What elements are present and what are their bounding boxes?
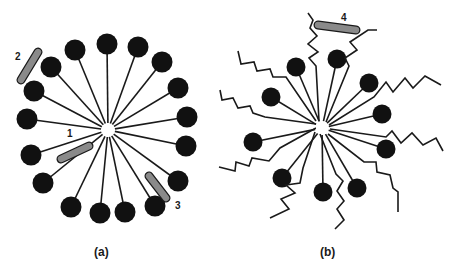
polar-head <box>97 34 118 55</box>
panel-label-b: (b) <box>320 245 335 259</box>
polar-head <box>262 88 281 107</box>
polar-head <box>373 105 392 124</box>
polar-head <box>90 203 111 224</box>
surfactant-tail <box>115 131 186 146</box>
guest-label-2: 2 <box>15 51 21 62</box>
polar-head <box>176 136 197 157</box>
polar-head <box>168 171 189 192</box>
polar-head <box>377 140 396 159</box>
polar-head <box>177 107 198 128</box>
polar-head <box>41 57 62 78</box>
polar-head <box>115 202 136 223</box>
polar-head <box>314 183 333 202</box>
polar-head <box>65 40 86 61</box>
polar-head <box>61 197 82 218</box>
zigzag-chain <box>219 128 316 171</box>
surfactant-tail <box>253 129 315 142</box>
polar-head <box>348 179 367 198</box>
polar-head <box>21 145 42 166</box>
panel-label-a: (a) <box>94 245 109 259</box>
surfactant-tail <box>112 62 162 125</box>
guest-label-1: 1 <box>67 128 73 139</box>
surfactant-tail <box>51 67 103 125</box>
surfactant-tail <box>110 47 138 123</box>
polar-head <box>360 74 379 93</box>
guest-molecule-3 <box>149 176 166 198</box>
guest-label-4: 4 <box>341 12 347 23</box>
surfactant-tail <box>100 137 107 213</box>
micelle-core <box>316 122 328 134</box>
guest-label-3: 3 <box>175 200 181 211</box>
micelle-figure: 2 1 3 4 (a) (b) <box>0 0 451 277</box>
polar-head <box>244 133 263 152</box>
polar-head <box>33 173 54 194</box>
panel-b-mixed-micelle <box>219 13 443 229</box>
surfactant-tail <box>109 137 125 212</box>
panel-a-micelle <box>17 34 198 224</box>
polar-head <box>17 109 38 130</box>
guest-molecule-2 <box>21 52 38 80</box>
polar-head <box>168 78 189 99</box>
surfactant-tail <box>107 44 108 123</box>
polar-head <box>152 52 173 73</box>
surfactant-tail <box>112 136 155 206</box>
surfactant-tail <box>75 50 105 124</box>
polar-head <box>328 50 347 69</box>
polar-head <box>128 37 149 58</box>
polar-head <box>287 58 306 77</box>
polar-head <box>24 81 45 102</box>
micelle-core <box>102 124 114 136</box>
